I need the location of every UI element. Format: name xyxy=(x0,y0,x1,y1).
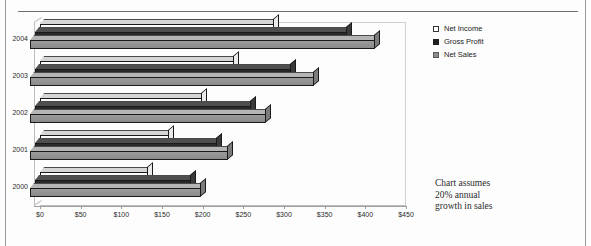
legend-item-net-sales: Net Sales xyxy=(433,48,553,61)
x-axis-tick-label-450: $450 xyxy=(398,211,414,218)
chart-annotation-note: Chart assumes 20% annual growth in sales xyxy=(435,178,575,213)
x-axis-tick-50 xyxy=(81,206,82,209)
y-axis-label-2004: 2004 xyxy=(12,35,28,42)
bar-2003-net-sales xyxy=(30,77,314,86)
x-axis-tick-0 xyxy=(40,206,41,209)
legend-label-net-income: Net Income xyxy=(444,24,482,33)
legend-label-gross-profit: Gross Profit xyxy=(444,37,484,46)
x-axis-tick-label-250: $250 xyxy=(236,211,252,218)
frame-left-border xyxy=(5,0,6,246)
bar-end-cap xyxy=(200,178,206,197)
note-line-1: Chart assumes xyxy=(435,178,575,190)
frame-right-border xyxy=(585,0,586,246)
y-axis-label-2002: 2002 xyxy=(12,109,28,116)
x-axis-tick-350 xyxy=(325,206,326,209)
bar-group-2004: 2004 xyxy=(34,24,406,54)
note-line-3: growth in sales xyxy=(435,201,575,213)
x-axis-tick-label-100: $100 xyxy=(114,211,130,218)
note-line-2: 20% annual xyxy=(435,190,575,202)
x-axis-tick-300 xyxy=(284,206,285,209)
y-axis-label-2003: 2003 xyxy=(12,72,28,79)
bar-2002-net-sales xyxy=(30,114,266,123)
chart-legend: Net IncomeGross ProfitNet Sales xyxy=(433,22,553,61)
bar-front-face xyxy=(30,77,314,86)
x-axis-tick-label-0: $0 xyxy=(36,211,44,218)
top-divider-rule xyxy=(18,11,578,12)
legend-item-net-income: Net Income xyxy=(433,22,553,35)
x-axis-tick-100 xyxy=(121,206,122,209)
y-axis-label-2001: 2001 xyxy=(12,146,28,153)
bar-2004-net-sales xyxy=(30,40,375,49)
legend-item-gross-profit: Gross Profit xyxy=(433,35,553,48)
bar-2000-net-sales xyxy=(30,188,201,197)
x-axis-tick-250 xyxy=(243,206,244,209)
bar-front-face xyxy=(30,40,375,49)
x-axis-tick-450 xyxy=(406,206,407,209)
bar-front-face xyxy=(30,114,266,123)
x-axis: $0$50$100$150$200$250$300$350$400$450 xyxy=(34,206,406,228)
plot-area: 20042003200220012000 xyxy=(34,16,406,206)
x-axis-tick-label-350: $350 xyxy=(317,211,333,218)
legend-swatch-net-sales-icon xyxy=(433,52,439,58)
legend-swatch-net-income-icon xyxy=(433,26,439,32)
x-axis-tick-label-300: $300 xyxy=(276,211,292,218)
bar-end-cap xyxy=(374,30,380,49)
x-axis-line xyxy=(34,206,406,207)
legend-swatch-gross-profit-icon xyxy=(433,39,439,45)
bar-front-face xyxy=(30,188,201,197)
bar-end-cap xyxy=(313,67,319,86)
bar-2001-net-sales xyxy=(30,151,228,160)
bar-end-cap xyxy=(265,104,271,123)
bar-group-2003: 2003 xyxy=(34,61,406,91)
bar-end-cap xyxy=(227,141,233,160)
x-axis-tick-label-400: $400 xyxy=(358,211,374,218)
chart-screenshot: 20042003200220012000 $0$50$100$150$200$2… xyxy=(0,0,591,246)
x-axis-tick-label-50: $50 xyxy=(75,211,87,218)
bar-group-2000: 2000 xyxy=(34,172,406,202)
x-axis-tick-400 xyxy=(365,206,366,209)
x-axis-tick-label-200: $200 xyxy=(195,211,211,218)
x-axis-tick-200 xyxy=(203,206,204,209)
bar-front-face xyxy=(30,151,228,160)
bar-group-2002: 2002 xyxy=(34,98,406,128)
x-axis-tick-150 xyxy=(162,206,163,209)
bar-group-2001: 2001 xyxy=(34,135,406,165)
x-axis-tick-label-150: $150 xyxy=(154,211,170,218)
legend-label-net-sales: Net Sales xyxy=(444,50,477,59)
y-axis-label-2000: 2000 xyxy=(12,183,28,190)
